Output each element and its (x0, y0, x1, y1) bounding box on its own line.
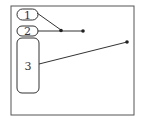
label-box-1: 1 (17, 9, 38, 22)
diagram-canvas: 1 2 3 (0, 0, 142, 123)
label-2-text: 2 (24, 25, 31, 38)
label-box-2: 2 (17, 25, 38, 38)
leader-line-1 (37, 13, 61, 30)
point-dot-2 (81, 29, 85, 33)
label-box-3: 3 (17, 38, 39, 93)
label-3-text: 3 (25, 60, 32, 73)
label-1-text: 1 (24, 9, 31, 22)
point-dot-3 (125, 40, 129, 44)
point-dot-1 (59, 29, 63, 33)
leader-line-3 (39, 42, 127, 64)
